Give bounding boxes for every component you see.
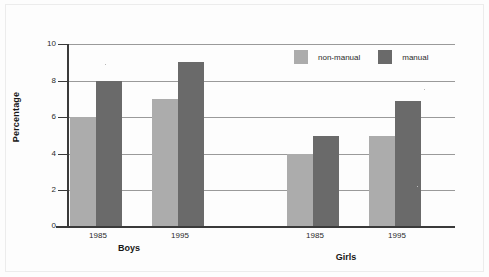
y-tick-mark-4 [58, 154, 68, 155]
legend-label-non-manual: non-manual [318, 53, 360, 62]
legend-item-manual[interactable]: manual [378, 50, 428, 64]
y-tick-label-10: 10 [32, 40, 56, 48]
x-axis-line [56, 226, 455, 228]
bar-girls-1995-non-manual[interactable] [369, 136, 395, 228]
bar-chart-figure: 10 8 6 4 2 0 Percentage 1985 1995 1985 1… [0, 0, 489, 277]
gridline-10 [68, 44, 455, 45]
x-tick-label-boys-1995: 1995 [150, 231, 210, 240]
y-tick-label-2: 2 [32, 186, 56, 194]
legend-swatch-non-manual-icon [294, 50, 308, 64]
y-tick-label-4: 4 [32, 150, 56, 158]
bar-girls-1995-manual[interactable] [395, 101, 421, 227]
group-label-boys: Boys [79, 243, 179, 253]
scan-speckle [417, 186, 418, 187]
scan-speckle [424, 89, 425, 90]
bar-girls-1985-non-manual[interactable] [287, 154, 313, 227]
y-tick-mark-2 [58, 190, 68, 191]
gridline-8 [68, 81, 455, 82]
plot-area [68, 44, 455, 227]
legend-item-non-manual[interactable]: non-manual [294, 50, 360, 64]
y-tick-label-0: 0 [32, 222, 56, 230]
group-label-girls: Girls [296, 252, 396, 262]
x-tick-label-girls-1985: 1985 [285, 231, 345, 240]
y-tick-mark-10 [58, 44, 68, 45]
legend-label-manual: manual [402, 53, 428, 62]
y-tick-mark-6 [58, 117, 68, 118]
y-axis-line [67, 44, 69, 228]
bar-boys-1995-non-manual[interactable] [152, 99, 178, 227]
y-tick-mark-8 [58, 81, 68, 82]
x-tick-label-boys-1985: 1985 [68, 231, 128, 240]
y-tick-label-8: 8 [32, 77, 56, 85]
bar-boys-1985-non-manual[interactable] [70, 117, 96, 227]
legend-swatch-manual-icon [378, 50, 392, 64]
y-axis-title: Percentage [11, 72, 21, 162]
legend: non-manual manual [294, 48, 429, 66]
y-tick-mark-0 [58, 226, 68, 227]
x-tick-label-girls-1995: 1995 [367, 231, 427, 240]
bar-boys-1985-manual[interactable] [96, 81, 122, 227]
bar-boys-1995-manual[interactable] [178, 62, 204, 227]
y-tick-labels: 10 8 6 4 2 0 [26, 0, 56, 277]
y-tick-label-6: 6 [32, 113, 56, 121]
bar-girls-1985-manual[interactable] [313, 136, 339, 228]
scan-speckle [105, 64, 106, 65]
